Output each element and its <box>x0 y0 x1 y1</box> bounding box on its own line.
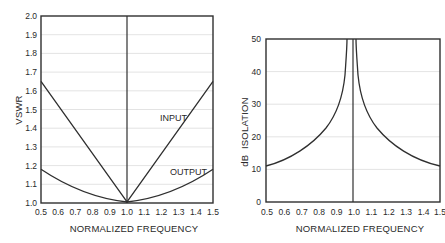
x-tick: 0.5 <box>35 207 47 217</box>
vswr-x-ticks: 0.5 0.6 0.7 0.8 0.9 1.0 1.1 1.2 1.3 1.4 … <box>35 207 219 217</box>
vswr-y-axis-title: VSWR <box>13 95 24 124</box>
x-tick: 1.4 <box>190 207 202 217</box>
vswr-input-label: INPUT <box>160 113 188 123</box>
y-tick: 1.8 <box>25 48 37 58</box>
x-tick: 0.7 <box>296 207 308 217</box>
x-tick: 1.2 <box>155 207 167 217</box>
figure-canvas: INPUT OUTPUT 1.0 1.1 1.2 1.3 1.4 1.5 1.6… <box>0 0 445 243</box>
isolation-chart: 0 10 20 30 40 50 0.5 0.6 0.7 0.8 0.9 1.0… <box>239 34 445 234</box>
isolation-y-axis-title: dB ISOLATION <box>239 97 250 166</box>
y-tick: 1.7 <box>25 67 37 77</box>
y-tick: 50 <box>252 34 262 44</box>
vswr-x-axis-title: NORMALIZED FREQUENCY <box>70 223 199 234</box>
x-tick: 1.4 <box>418 207 430 217</box>
x-tick: 0.7 <box>69 207 81 217</box>
vswr-output-label: OUTPUT <box>170 167 208 177</box>
vswr-chart: INPUT OUTPUT 1.0 1.1 1.2 1.3 1.4 1.5 1.6… <box>13 11 219 234</box>
x-tick: 1.5 <box>207 207 219 217</box>
y-tick: 0 <box>256 197 261 207</box>
x-tick: 0.6 <box>52 207 64 217</box>
x-tick: 0.5 <box>261 207 273 217</box>
isolation-x-axis-title: NORMALIZED FREQUENCY <box>296 223 425 234</box>
x-tick: 0.9 <box>331 207 343 217</box>
y-tick: 20 <box>252 132 262 142</box>
y-tick: 1.3 <box>25 142 37 152</box>
isolation-curve-left <box>266 39 347 166</box>
y-tick: 30 <box>252 99 262 109</box>
x-tick: 1.5 <box>434 207 445 217</box>
isolation-y-ticks: 0 10 20 30 40 50 <box>252 34 262 207</box>
x-tick: 0.8 <box>313 207 325 217</box>
vswr-y-ticks: 1.0 1.1 1.2 1.3 1.4 1.5 1.6 1.7 1.8 1.9 … <box>25 11 37 208</box>
x-tick: 1.1 <box>365 207 377 217</box>
x-tick: 1.3 <box>400 207 412 217</box>
y-tick: 40 <box>252 67 262 77</box>
isolation-x-ticks: 0.5 0.6 0.7 0.8 0.9 1.0 1.1 1.2 1.3 1.4 … <box>261 207 445 217</box>
y-tick: 1.5 <box>25 105 37 115</box>
y-tick: 1.2 <box>25 161 37 171</box>
y-tick: 2.0 <box>25 11 37 21</box>
x-tick: 0.8 <box>87 207 99 217</box>
x-tick: 0.6 <box>278 207 290 217</box>
x-tick: 1.2 <box>383 207 395 217</box>
y-tick: 1.1 <box>25 179 37 189</box>
x-tick: 0.9 <box>104 207 116 217</box>
y-tick: 1.9 <box>25 30 37 40</box>
x-tick: 1.3 <box>173 207 185 217</box>
isolation-curve-right <box>356 39 440 166</box>
x-tick: 1.0 <box>348 207 360 217</box>
y-tick: 1.4 <box>25 123 37 133</box>
x-tick: 1.1 <box>138 207 150 217</box>
y-tick: 10 <box>252 164 262 174</box>
y-tick: 1.6 <box>25 86 37 96</box>
x-tick: 1.0 <box>121 207 133 217</box>
